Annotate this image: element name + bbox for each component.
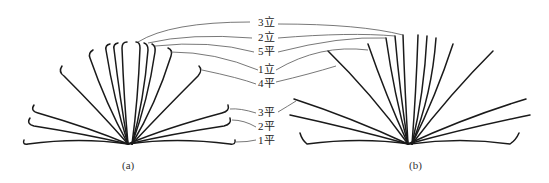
label-1-ping: 1平 [258,135,275,146]
caption-b: (b) [409,160,422,171]
label-3-li: 3立 [258,17,275,28]
label-3-ping: 3平 [258,107,275,118]
label-4-ping: 4平 [258,78,275,89]
label-1-li: 1立 [258,64,275,75]
caption-a: (a) [122,160,134,171]
label-2-li: 2立 [258,32,275,43]
panel-a-strips [24,42,236,144]
label-5-ping: 5平 [258,46,275,57]
label-2-ping: 2平 [258,121,275,132]
